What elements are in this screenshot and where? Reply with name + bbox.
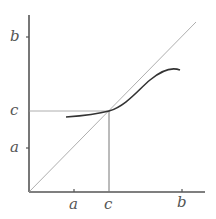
identity-diagonal: [29, 22, 196, 192]
y-label-b: b: [10, 29, 20, 44]
function-curve: [66, 69, 180, 117]
x-label-c: c: [104, 197, 112, 212]
x-label-b: b: [177, 195, 187, 210]
y-label-c: c: [10, 103, 18, 118]
x-label-a: a: [69, 197, 78, 212]
diagram-canvas: [0, 0, 216, 219]
y-label-a: a: [10, 140, 19, 155]
